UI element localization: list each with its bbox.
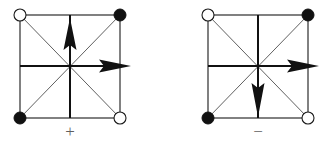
panel-plus-label: + (65, 122, 75, 141)
panel-minus: − (202, 9, 319, 141)
node-top-left-open (202, 9, 214, 21)
node-top-left-open (14, 9, 26, 21)
node-top-right-filled (114, 9, 126, 21)
panel-minus-label: − (253, 122, 263, 141)
node-top-right-filled (302, 9, 314, 21)
figure-root: + − (0, 0, 327, 146)
arrow-head-down-icon (252, 83, 265, 117)
node-bottom-left-filled (202, 112, 214, 124)
node-bottom-left-filled (14, 112, 26, 124)
node-bottom-right-open (302, 112, 314, 124)
symmetry-diagram-pair: + − (0, 0, 327, 146)
panel-plus: + (14, 9, 131, 141)
node-bottom-right-open (114, 112, 126, 124)
